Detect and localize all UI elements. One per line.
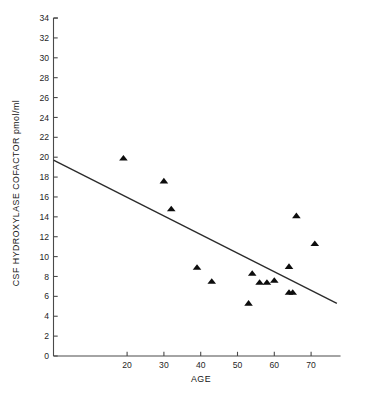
data-points (119, 155, 319, 306)
regression-line-path (54, 160, 337, 303)
data-point-marker (270, 277, 279, 283)
axes-group (54, 18, 341, 356)
data-point-marker (292, 213, 301, 219)
y-tick-label: 32 (39, 33, 49, 43)
y-tick-label: 12 (39, 232, 49, 242)
y-tick-label: 24 (39, 113, 49, 123)
y-tick-label: 8 (44, 272, 49, 282)
y-tick-label: 14 (39, 212, 49, 222)
y-tick-label: 6 (44, 291, 49, 301)
y-tick-label: 26 (39, 93, 49, 103)
y-tick-label: 22 (39, 132, 49, 142)
x-tick-label: 50 (233, 360, 243, 370)
data-point-marker (193, 264, 202, 270)
y-tick-label: 28 (39, 73, 49, 83)
data-point-marker (167, 206, 176, 212)
y-tick-label: 0 (44, 351, 49, 361)
x-tick-label: 20 (122, 360, 132, 370)
data-point-marker (285, 263, 294, 269)
x-tick-label: 30 (159, 360, 169, 370)
data-point-marker (244, 300, 253, 306)
x-axis-title: AGE (191, 374, 211, 384)
plot-canvas: 0246810121416182022242628303234 20304050… (0, 0, 370, 393)
scatter-plot-figure: 0246810121416182022242628303234 20304050… (0, 0, 370, 393)
y-tick-label: 20 (39, 152, 49, 162)
y-tick-label: 4 (44, 311, 49, 321)
x-tick-label: 40 (196, 360, 206, 370)
y-tick-label: 16 (39, 192, 49, 202)
regression-line (54, 160, 337, 303)
y-tick-label: 30 (39, 53, 49, 63)
y-axis-title: CSF HYDROXYLASE COFACTOR pmol/ml (12, 100, 22, 286)
data-point-marker (248, 270, 257, 276)
data-point-marker (310, 240, 319, 246)
data-point-marker (160, 178, 169, 184)
axis-titles: AGECSF HYDROXYLASE COFACTOR pmol/ml (12, 100, 212, 384)
data-point-marker (207, 278, 216, 284)
x-tick-label: 70 (306, 360, 316, 370)
data-point-marker (255, 279, 264, 285)
y-tick-label: 10 (39, 252, 49, 262)
x-axis-ticks: 203040506070 (122, 352, 316, 370)
y-tick-label: 2 (44, 331, 49, 341)
y-tick-label: 34 (39, 13, 49, 23)
data-point-marker (263, 279, 272, 285)
y-axis-ticks: 0246810121416182022242628303234 (39, 13, 57, 361)
y-tick-label: 18 (39, 172, 49, 182)
x-tick-label: 60 (270, 360, 280, 370)
data-point-marker (119, 155, 128, 161)
